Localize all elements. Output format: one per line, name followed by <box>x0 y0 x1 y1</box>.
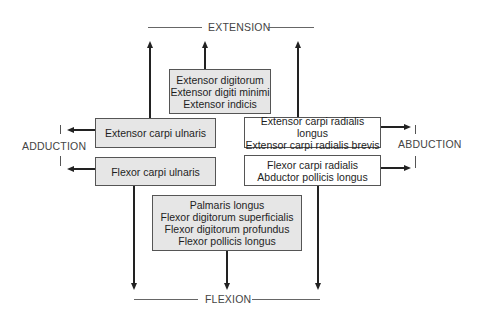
box-flexor-digitorum-group: Palmaris longus Flexor digitorum superfi… <box>152 195 302 251</box>
abduction-tick-top <box>415 125 416 134</box>
box-line: Extensor carpi radialis brevis <box>245 139 379 151</box>
extension-rule-right <box>268 27 314 28</box>
extension-label: EXTENSION <box>208 21 270 33</box>
arrow-up-left-icon <box>147 41 153 48</box>
adduction-tick-bottom <box>60 156 61 166</box>
box-line: Flexor carpi ulnaris <box>111 166 200 178</box>
arrow-down-left-shaft <box>133 186 135 284</box>
arrow-up-center-shaft <box>204 46 206 70</box>
arrow-left-lower-shaft <box>73 168 95 170</box>
arrow-right-upper-shaft <box>381 126 405 128</box>
arrow-up-right-icon <box>295 41 301 48</box>
box-line: Abductor pollicis longus <box>257 171 367 183</box>
arrow-right-lower-icon <box>404 165 411 171</box>
arrow-down-center-shaft <box>226 250 228 284</box>
abduction-tick-bottom <box>415 156 416 168</box>
arrow-up-right-shaft <box>297 46 299 117</box>
box-flexor-carpi-radialis-group: Flexor carpi radialis Abductor pollicis … <box>244 155 381 186</box>
box-line: Extensor digitorum <box>176 74 264 86</box>
arrow-right-lower-shaft <box>381 167 405 169</box>
arrow-right-upper-icon <box>404 124 411 130</box>
adduction-label: ADDUCTION <box>22 140 86 152</box>
abduction-label: ABDUCTION <box>398 138 462 150</box>
box-line: Extensor carpi ulnaris <box>105 127 206 139</box>
box-line: Extensor digiti minimi <box>170 86 269 98</box>
flexion-rule-left <box>134 299 198 300</box>
box-extensor-digitorum-group: Extensor digitorum Extensor digiti minim… <box>169 69 271 114</box>
extension-rule-left <box>148 27 202 28</box>
arrow-down-left-icon <box>131 283 137 290</box>
flexion-rule-right <box>252 299 320 300</box>
arrow-up-left-shaft <box>149 46 151 118</box>
box-extensor-carpi-radialis-group: Extensor carpi radialis longus Extensor … <box>244 117 381 148</box>
box-line: Flexor carpi radialis <box>267 159 358 171</box>
arrow-down-right-shaft <box>317 186 319 284</box>
adduction-tick-top <box>60 125 61 134</box>
box-line: Flexor digitorum superficialis <box>160 211 293 223</box>
box-line: Palmaris longus <box>190 199 265 211</box>
arrow-up-center-icon <box>202 41 208 48</box>
box-extensor-carpi-ulnaris: Extensor carpi ulnaris <box>95 118 216 148</box>
arrow-left-upper-icon <box>67 127 74 133</box>
box-line: Extensor carpi radialis longus <box>245 115 380 139</box>
flexion-label: FLEXION <box>205 293 251 305</box>
arrow-down-center-icon <box>224 283 230 290</box>
box-line: Flexor digitorum profundus <box>165 223 290 235</box>
arrow-down-right-icon <box>315 283 321 290</box>
box-line: Flexor pollicis longus <box>178 235 275 247</box>
box-flexor-carpi-ulnaris: Flexor carpi ulnaris <box>95 157 216 186</box>
arrow-left-lower-icon <box>67 166 74 172</box>
arrow-left-upper-shaft <box>73 129 95 131</box>
box-line: Extensor indicis <box>183 98 257 110</box>
